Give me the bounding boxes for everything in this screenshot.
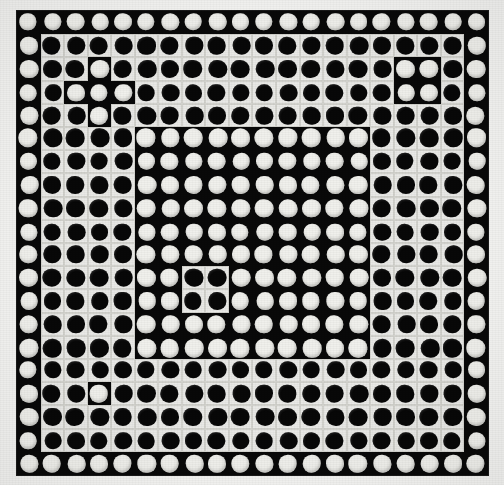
matrix-cell [323, 57, 347, 80]
matrix-cell [441, 197, 465, 220]
matrix-cell [323, 81, 347, 104]
matrix-cell [394, 243, 418, 266]
matrix-cell [205, 359, 229, 382]
matrix-cell [252, 452, 276, 475]
matrix-cell [41, 266, 65, 289]
matrix-cell [158, 11, 182, 34]
white-dot-icon [138, 455, 156, 473]
black-dot-icon [66, 176, 84, 194]
black-dot-icon [44, 84, 61, 101]
matrix-cell [41, 57, 65, 80]
matrix-cell [135, 127, 159, 150]
matrix-cell [347, 81, 371, 104]
matrix-cell [323, 197, 347, 220]
matrix-cell [205, 34, 229, 57]
matrix-cell [417, 359, 441, 382]
matrix-cell [370, 405, 394, 428]
white-dot-icon [232, 316, 250, 334]
matrix-cell [370, 220, 394, 243]
matrix-cell [88, 197, 112, 220]
matrix-cell [464, 266, 488, 289]
black-dot-icon [443, 84, 460, 101]
black-dot-icon [350, 432, 367, 449]
matrix-cell [158, 220, 182, 243]
black-dot-icon [255, 432, 272, 449]
black-dot-icon [90, 432, 107, 449]
white-dot-icon [19, 13, 36, 30]
matrix-cell [182, 197, 206, 220]
matrix-cell [229, 34, 253, 57]
white-dot-icon [137, 13, 154, 30]
matrix-cell [252, 359, 276, 382]
matrix-cell [394, 34, 418, 57]
black-dot-icon [443, 316, 461, 334]
black-dot-icon [397, 292, 414, 309]
white-dot-icon [326, 224, 343, 241]
white-dot-icon [184, 129, 203, 148]
matrix-cell [205, 127, 229, 150]
matrix-cell [111, 405, 135, 428]
black-dot-icon [115, 153, 132, 170]
black-dot-icon [420, 339, 439, 358]
matrix-cell [182, 104, 206, 127]
black-dot-icon [256, 60, 275, 79]
matrix-cell [417, 81, 441, 104]
white-dot-icon [467, 268, 486, 287]
matrix-cell [370, 11, 394, 34]
black-dot-icon [232, 385, 250, 403]
black-dot-icon [114, 176, 132, 194]
black-dot-icon [373, 408, 392, 427]
white-dot-icon [20, 339, 39, 358]
black-dot-icon [420, 385, 438, 403]
matrix-cell [276, 173, 300, 196]
black-dot-icon [67, 37, 85, 55]
white-dot-icon [161, 224, 178, 241]
matrix-cell [394, 266, 418, 289]
matrix-cell [276, 336, 300, 359]
matrix-cell [417, 452, 441, 475]
matrix-cell [276, 429, 300, 452]
white-dot-icon [19, 361, 36, 378]
black-dot-icon [208, 385, 226, 403]
black-dot-icon [373, 60, 392, 79]
matrix-cell [394, 382, 418, 405]
white-dot-icon [256, 153, 273, 170]
matrix-cell [41, 173, 65, 196]
black-dot-icon [232, 84, 249, 101]
matrix-cell [323, 104, 347, 127]
matrix-cell [417, 429, 441, 452]
matrix-cell [300, 57, 324, 80]
white-dot-icon [278, 339, 297, 358]
matrix-cell [64, 34, 88, 57]
matrix-cell [347, 266, 371, 289]
white-dot-icon [325, 316, 343, 334]
white-dot-icon [467, 176, 485, 194]
matrix-cell [347, 243, 371, 266]
matrix-cell [158, 336, 182, 359]
matrix-cell [229, 173, 253, 196]
white-dot-icon [160, 339, 179, 358]
matrix-cell [158, 382, 182, 405]
matrix-cell [17, 313, 41, 336]
matrix-cell [394, 81, 418, 104]
black-dot-icon [373, 361, 390, 378]
white-dot-icon [468, 37, 486, 55]
black-dot-icon [113, 60, 132, 79]
white-dot-icon [19, 268, 38, 287]
matrix-cell [111, 243, 135, 266]
matrix-cell [158, 289, 182, 312]
white-dot-icon [327, 245, 345, 263]
black-dot-icon [373, 432, 390, 449]
black-dot-icon [90, 37, 108, 55]
black-dot-icon [114, 268, 133, 287]
matrix-cell [300, 336, 324, 359]
matrix-cell [300, 289, 324, 312]
matrix-cell [64, 57, 88, 80]
matrix-cell [464, 429, 488, 452]
white-dot-icon [19, 316, 37, 334]
white-dot-icon [325, 268, 344, 287]
matrix-cell [64, 104, 88, 127]
white-dot-icon [302, 199, 321, 218]
white-dot-icon [349, 455, 367, 473]
matrix-cell [276, 452, 300, 475]
